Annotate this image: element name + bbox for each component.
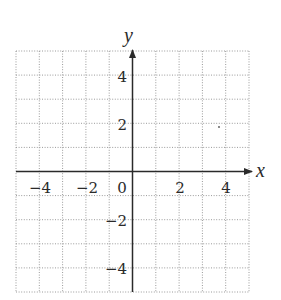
x-tick-label-pos2: 2 <box>175 179 185 197</box>
x-tick-label-neg2: −2 <box>76 179 98 197</box>
x-tick-label-neg4: −4 <box>29 179 51 197</box>
y-axis-label: y <box>122 24 133 47</box>
speck-mark <box>218 126 220 128</box>
coordinate-plane: x y −4 −2 0 2 4 4 2 −2 −4 <box>0 0 281 300</box>
y-tick-label-pos4: 4 <box>117 68 127 86</box>
y-tick-label-neg4: −4 <box>105 260 127 278</box>
x-tick-label-pos4: 4 <box>221 179 231 197</box>
y-tick-label-neg2: −2 <box>105 212 127 230</box>
y-tick-label-pos2: 2 <box>117 116 127 134</box>
x-tick-label-zero: 0 <box>117 179 127 197</box>
x-axis-label: x <box>255 159 265 181</box>
